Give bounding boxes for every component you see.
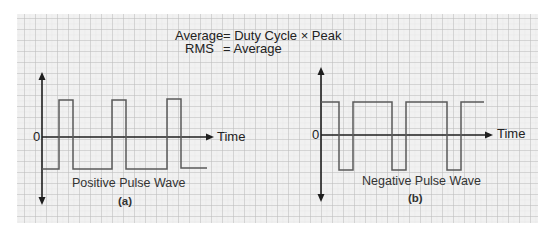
panel-b-caption: (b) xyxy=(408,192,423,204)
formula-rms-expression: = Average xyxy=(223,41,282,56)
positive-pulse-title: Positive Pulse Wave xyxy=(72,176,185,190)
formula-rms-label: RMS xyxy=(185,41,214,56)
time-axis-label-b: Time xyxy=(497,126,525,141)
negative-pulse-title: Negative Pulse Wave xyxy=(362,174,481,188)
time-axis-label-a: Time xyxy=(217,129,245,144)
panel-a-caption: (a) xyxy=(118,195,132,207)
zero-label-a: 0 xyxy=(33,129,40,144)
zero-label-b: 0 xyxy=(312,127,319,142)
